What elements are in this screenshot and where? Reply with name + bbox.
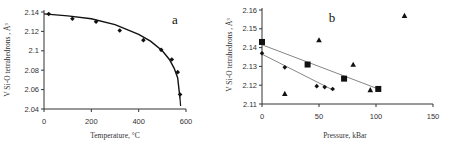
triangle-marker xyxy=(316,37,322,42)
y-tick-label: 2.15 xyxy=(242,24,257,33)
square-marker xyxy=(305,62,311,68)
y-tick-label: 2.06 xyxy=(24,85,39,94)
y-tick-label: 2.14 xyxy=(242,43,257,52)
y-tick-label: 2.12 xyxy=(242,81,257,90)
y-tick-label: 2.08 xyxy=(24,66,39,75)
triangle-marker xyxy=(402,13,408,18)
fit-curve-tail xyxy=(180,99,181,106)
y-tick-label: 2.04 xyxy=(24,105,39,114)
x-tick-label: 0 xyxy=(42,117,46,126)
diamond-marker xyxy=(330,87,335,92)
figure: 2.042.062.082.12.122.140200400600Tempera… xyxy=(0,0,453,147)
panel-label: a xyxy=(172,12,178,27)
diamond-marker xyxy=(314,84,319,89)
triangle-marker xyxy=(368,87,374,92)
chart-b-pressure: 2.112.122.132.142.152.16050100150Pressur… xyxy=(225,6,439,141)
y-tick-label: 2.12 xyxy=(24,27,39,36)
triangle-marker xyxy=(282,91,288,96)
x-tick-label: 0 xyxy=(260,112,264,121)
x-tick-label: 600 xyxy=(180,117,193,126)
y-axis-title: V Si-O tetrahedrons , Å³ xyxy=(225,17,234,91)
trendline xyxy=(262,54,333,90)
panel-label: b xyxy=(329,10,336,25)
trendline xyxy=(262,45,378,89)
x-tick-label: 50 xyxy=(315,112,323,121)
y-tick-label: 2.13 xyxy=(242,62,257,71)
fit-curve xyxy=(44,14,180,99)
y-tick-label: 2.11 xyxy=(243,100,257,109)
y-tick-label: 2.14 xyxy=(24,8,39,17)
x-tick-label: 150 xyxy=(427,112,440,121)
square-marker xyxy=(375,86,381,92)
y-tick-label: 2.16 xyxy=(242,6,257,15)
x-axis-title: Temperature, °C xyxy=(90,131,140,140)
x-tick-label: 200 xyxy=(85,117,98,126)
diamond-marker xyxy=(117,28,122,33)
square-marker xyxy=(259,39,265,45)
y-tick-label: 2.1 xyxy=(29,46,39,55)
triangle-marker xyxy=(350,62,356,67)
x-axis-title: Pressure, kBar xyxy=(323,131,367,140)
diamond-marker xyxy=(283,65,288,70)
x-tick-label: 100 xyxy=(370,112,383,121)
chart-a-temperature: 2.042.062.082.12.122.140200400600Tempera… xyxy=(3,8,192,141)
y-axis-title: V Si-O tetrahedrons , Å³ xyxy=(3,22,12,96)
square-marker xyxy=(341,76,347,82)
x-tick-label: 400 xyxy=(132,117,145,126)
